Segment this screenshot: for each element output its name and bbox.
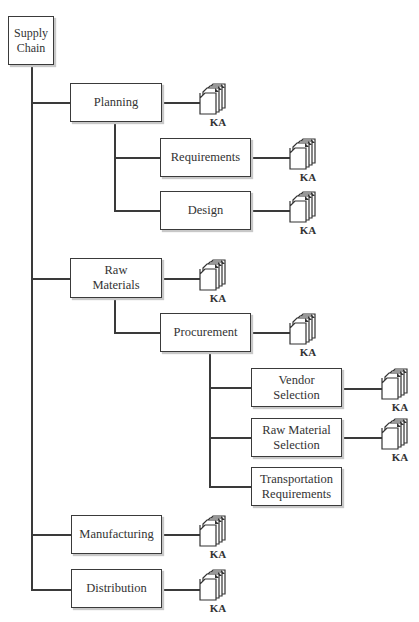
ka-distribution[interactable]: KA: [199, 569, 229, 615]
ka-procurement[interactable]: KA: [289, 313, 319, 359]
document-stack-icon: [289, 313, 319, 345]
connector-procurement: [114, 332, 160, 334]
planning-branch-line: [114, 122, 116, 211]
ka-raw-material-selection[interactable]: KA: [381, 418, 411, 464]
connector-planning: [31, 102, 71, 104]
document-stack-icon: [199, 569, 229, 601]
connector-manufacturing: [31, 534, 71, 536]
document-stack-icon: [289, 138, 319, 170]
ka-label: KA: [207, 602, 229, 614]
document-stack-icon: [199, 83, 229, 115]
document-stack-icon: [381, 368, 411, 400]
connector-distribution: [31, 589, 71, 591]
connector-requirements: [114, 157, 160, 159]
document-stack-icon: [199, 259, 229, 291]
ka-link-distribution: [162, 589, 200, 591]
ka-link-manufacturing: [162, 534, 200, 536]
document-stack-icon: [289, 191, 319, 223]
connector-vendor-selection: [209, 387, 251, 389]
node-design[interactable]: Design: [160, 191, 251, 230]
ka-requirements[interactable]: KA: [289, 138, 319, 184]
ka-label: KA: [389, 401, 411, 413]
ka-label: KA: [297, 171, 319, 183]
node-procurement[interactable]: Procurement: [160, 313, 251, 352]
ka-vendor-selection[interactable]: KA: [381, 368, 411, 414]
node-transportation-requirements[interactable]: Transportation Requirements: [251, 467, 342, 506]
ka-link-vendor-selection: [342, 388, 382, 390]
ka-label: KA: [297, 346, 319, 358]
ka-label: KA: [389, 451, 411, 463]
raw-materials-branch-line: [114, 298, 116, 333]
ka-link-requirements: [251, 157, 290, 159]
ka-label: KA: [207, 116, 229, 128]
connector-raw-materials: [31, 278, 71, 280]
supply-chain-tree-diagram: Supply Chain Planning Requirements Desig…: [0, 0, 419, 622]
ka-label: KA: [297, 224, 319, 236]
trunk-line: [31, 64, 33, 591]
connector-transportation: [209, 486, 251, 488]
ka-link-raw-material-selection: [342, 437, 382, 439]
ka-manufacturing[interactable]: KA: [199, 515, 229, 561]
ka-planning[interactable]: KA: [199, 83, 229, 129]
node-distribution[interactable]: Distribution: [71, 569, 162, 608]
node-requirements[interactable]: Requirements: [160, 138, 251, 177]
ka-link-raw-materials: [162, 278, 200, 280]
document-stack-icon: [381, 418, 411, 450]
ka-label: KA: [207, 548, 229, 560]
node-raw-materials[interactable]: Raw Materials: [70, 258, 162, 298]
node-raw-material-selection[interactable]: Raw Material Selection: [251, 418, 342, 457]
document-stack-icon: [199, 515, 229, 547]
node-supply-chain[interactable]: Supply Chain: [8, 16, 54, 65]
connector-raw-material-selection: [209, 437, 251, 439]
node-manufacturing[interactable]: Manufacturing: [71, 515, 162, 554]
connector-design: [114, 210, 160, 212]
ka-design[interactable]: KA: [289, 191, 319, 237]
ka-link-planning: [162, 102, 200, 104]
ka-link-design: [251, 210, 290, 212]
ka-label: KA: [207, 292, 229, 304]
ka-raw-materials[interactable]: KA: [199, 259, 229, 305]
node-vendor-selection[interactable]: Vendor Selection: [251, 368, 342, 407]
node-planning[interactable]: Planning: [70, 83, 162, 122]
procurement-branch-line: [209, 352, 211, 487]
ka-link-procurement: [251, 332, 290, 334]
